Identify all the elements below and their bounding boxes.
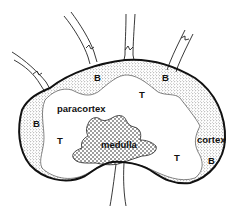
label-b-top-left: B <box>94 73 101 83</box>
label-cortex: cortex <box>197 135 226 145</box>
label-medulla: medulla <box>101 140 137 150</box>
label-t-left: T <box>57 136 63 146</box>
efferent-vessel <box>110 163 126 206</box>
afferent-vessel-1 <box>12 52 50 89</box>
afferent-vessel-4 <box>167 30 185 70</box>
afferent-vessel-3b <box>133 14 135 60</box>
label-t-right: T <box>174 153 180 163</box>
afferent-vessel-4b <box>176 34 193 72</box>
label-b-right: B <box>208 156 215 166</box>
afferent-vessel-2b <box>71 12 97 62</box>
afferent-vessel-2 <box>64 16 90 64</box>
label-b-top-right: B <box>162 73 169 83</box>
label-t-top: T <box>139 90 145 100</box>
label-paracortex: paracortex <box>57 104 106 114</box>
lymph-node-diagram <box>0 0 239 216</box>
afferent-vessel-3 <box>124 14 126 60</box>
label-b-left: B <box>33 119 40 129</box>
